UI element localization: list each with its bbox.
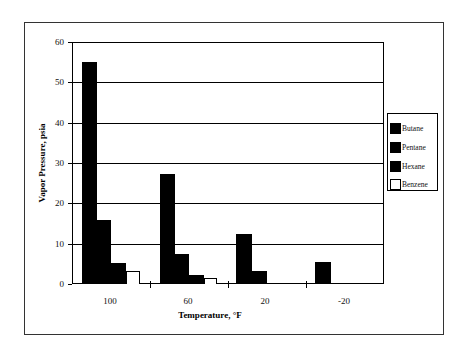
x-category-label: 20 (245, 296, 285, 306)
legend-swatch-icon (390, 142, 401, 153)
legend-item-benzene: Benzene (390, 178, 428, 190)
legend-swatch-icon (390, 123, 401, 134)
y-tick-label: 0 (44, 279, 64, 289)
legend-item-butane: Butane (390, 122, 423, 134)
y-tick-label: 10 (44, 239, 64, 249)
legend-label: Butane (402, 124, 423, 133)
legend-item-pentane: Pentane (390, 141, 426, 153)
y-tick-label: 30 (44, 158, 64, 168)
y-tick-label: 20 (44, 198, 64, 208)
legend-label: Hexane (402, 162, 425, 171)
y-axis-title: Vapor Pressure, psia (37, 124, 47, 203)
y-tick-label: 60 (44, 37, 64, 47)
legend-swatch-icon (390, 179, 401, 190)
x-axis-title: Temperature, °F (178, 310, 242, 320)
legend-swatch-icon (390, 161, 401, 172)
x-category-labels: 100 60 20 -20 (72, 42, 384, 312)
y-tick-label: 50 (44, 77, 64, 87)
legend-item-hexane: Hexane (390, 160, 425, 172)
y-tick-label: 40 (44, 118, 64, 128)
legend-label: Benzene (402, 180, 428, 189)
x-category-label: 100 (90, 296, 130, 306)
legend: Butane Pentane Hexane Benzene (387, 113, 438, 191)
y-tick-labels: 0 10 20 30 40 50 60 (0, 42, 72, 284)
legend-label: Pentane (402, 143, 426, 152)
x-category-label: -20 (324, 296, 364, 306)
x-category-label: 60 (168, 296, 208, 306)
